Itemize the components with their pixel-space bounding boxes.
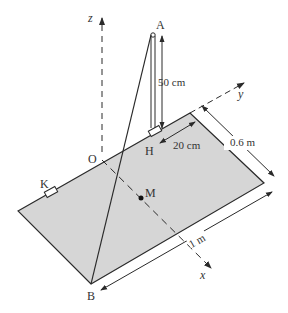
z-axis-label: z [87, 11, 93, 25]
label-H: H [145, 144, 154, 158]
diagram-canvas: z y x A O H K M B 50 cm 20 cm 0.6 m 1 m [0, 0, 288, 313]
label-A: A [156, 18, 165, 32]
x-axis-label: x [199, 268, 206, 282]
point-M [139, 196, 144, 201]
pulley-A [151, 33, 155, 37]
label-0.6m: 0.6 m [230, 136, 256, 148]
label-20cm: 20 cm [173, 139, 201, 151]
label-O: O [88, 152, 97, 166]
label-B: B [87, 289, 95, 303]
y-axis-label: y [237, 87, 244, 101]
label-50cm: 50 cm [158, 76, 186, 88]
y-axis [190, 83, 244, 113]
label-K: K [40, 177, 49, 191]
label-M: M [145, 186, 156, 200]
